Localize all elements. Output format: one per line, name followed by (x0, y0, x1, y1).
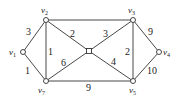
node-v7 (44, 79, 49, 84)
weight-v7-c: 6 (61, 57, 66, 68)
weight-v3-v4: 9 (148, 26, 153, 37)
weight-v4-v5: 10 (147, 65, 157, 76)
node-v4 (157, 50, 162, 55)
node-v3 (131, 18, 136, 23)
weight-c-v5: 4 (111, 56, 116, 67)
label-v1: v1 (9, 47, 16, 58)
weight-v3-v5: 2 (125, 46, 130, 57)
nodes (21, 18, 162, 84)
node-v5 (131, 79, 136, 84)
weight-v1-v2: 3 (26, 26, 31, 37)
weight-v3-c: 3 (103, 28, 108, 39)
label-v3: v3 (128, 5, 135, 16)
label-v2: v2 (41, 5, 48, 16)
node-v1 (21, 50, 26, 55)
label-v7: v7 (38, 85, 45, 96)
graph-canvas: 3 1 1 2 6 3 4 2 9 10 9 v1 v2 v3 v4 v5 v7 (0, 0, 178, 100)
node-center (87, 49, 92, 54)
weight-v7-v5: 9 (86, 82, 91, 93)
weight-v2-c: 2 (70, 28, 75, 39)
label-v5: v5 (129, 85, 136, 96)
label-v4: v4 (163, 47, 170, 58)
edge-v3-v4 (133, 20, 159, 52)
weight-v2-v7: 1 (48, 46, 53, 57)
node-v2 (44, 18, 49, 23)
weight-v1-v7: 1 (25, 65, 30, 76)
